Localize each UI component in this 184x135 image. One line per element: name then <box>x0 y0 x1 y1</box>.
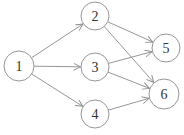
directed-graph: 123456 <box>0 0 184 135</box>
node-label: 4 <box>92 107 99 122</box>
node-label: 3 <box>92 60 99 75</box>
node-2: 2 <box>81 2 109 30</box>
node-5: 5 <box>152 34 180 62</box>
node-label: 6 <box>161 87 168 102</box>
node-label: 1 <box>16 59 23 74</box>
node-1: 1 <box>4 51 34 81</box>
node-label: 5 <box>163 41 170 56</box>
edge-1-to-2 <box>32 24 83 58</box>
edge-3-to-5 <box>109 52 153 64</box>
node-6: 6 <box>149 79 179 109</box>
edge-1-to-3 <box>34 66 81 67</box>
nodes: 123456 <box>4 2 180 128</box>
edge-1-to-4 <box>32 74 83 106</box>
node-label: 2 <box>92 9 99 24</box>
node-3: 3 <box>81 53 109 81</box>
edge-4-to-6 <box>108 98 149 110</box>
node-4: 4 <box>81 100 109 128</box>
edge-2-to-5 <box>108 22 153 42</box>
edge-3-to-6 <box>108 72 150 88</box>
